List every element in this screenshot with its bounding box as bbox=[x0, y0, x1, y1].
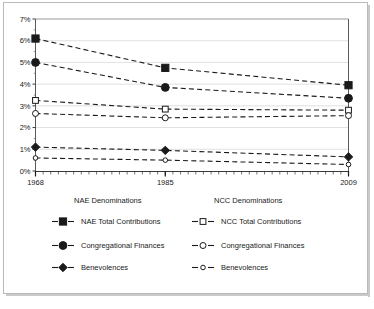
series-line bbox=[36, 39, 349, 86]
legend-entry[interactable]: Congregational Finances bbox=[52, 241, 165, 250]
series-line bbox=[36, 62, 349, 98]
legend-entry[interactable]: NCC Total Contributions bbox=[192, 217, 302, 226]
data-point-marker bbox=[161, 84, 169, 92]
y-tick-label: 3% bbox=[20, 102, 31, 111]
data-point-marker bbox=[200, 219, 206, 225]
data-point-marker bbox=[200, 243, 206, 249]
data-point-marker bbox=[31, 143, 39, 151]
legend-label: Congregational Finances bbox=[221, 241, 305, 250]
chart-page: 0%1%2%3%4%5%6%7% 196819852009 NAE Denomi… bbox=[0, 0, 374, 309]
y-tick-label: 1% bbox=[20, 145, 31, 154]
line-chart: 0%1%2%3%4%5%6%7% 196819852009 NAE Denomi… bbox=[0, 0, 374, 309]
series-5 bbox=[33, 156, 351, 167]
data-point-marker bbox=[32, 59, 40, 67]
data-point-marker bbox=[59, 242, 67, 250]
x-tick-label: 1985 bbox=[157, 178, 174, 187]
data-point-marker bbox=[344, 153, 352, 161]
plot-frame bbox=[36, 19, 349, 172]
legend-label: NCC Total Contributions bbox=[221, 217, 302, 226]
series-0 bbox=[32, 35, 352, 89]
x-tick-label: 2009 bbox=[340, 178, 357, 187]
legend-label: NAE Total Contributions bbox=[81, 217, 161, 226]
legend-entry[interactable]: Benevolences bbox=[192, 263, 268, 272]
series-3 bbox=[33, 98, 352, 114]
legend-column-1: NCC DenominationsNCC Total Contributions… bbox=[192, 196, 305, 272]
series-1 bbox=[32, 59, 353, 103]
data-point-marker bbox=[59, 263, 67, 271]
y-tick-label: 7% bbox=[20, 15, 31, 24]
y-tick-label: 4% bbox=[20, 80, 31, 89]
series-line bbox=[36, 158, 349, 165]
x-axis: 196819852009 bbox=[27, 171, 357, 187]
legend-label: Benevolences bbox=[81, 263, 128, 272]
y-tick-label: 6% bbox=[20, 36, 31, 45]
data-point-marker bbox=[346, 162, 351, 167]
series-line bbox=[36, 100, 349, 110]
data-point-marker bbox=[201, 265, 206, 270]
bottom-caption bbox=[4, 302, 370, 309]
data-point-marker bbox=[162, 106, 168, 112]
legend-heading: NCC Denominations bbox=[214, 196, 283, 205]
y-tick-label: 5% bbox=[20, 58, 31, 67]
legend-label: Congregational Finances bbox=[81, 241, 165, 250]
legend-entry[interactable]: Congregational Finances bbox=[192, 241, 305, 250]
data-point-marker bbox=[33, 98, 39, 104]
legend-heading: NAE Denominations bbox=[74, 196, 142, 205]
legend-column-0: NAE DenominationsNAE Total Contributions… bbox=[52, 196, 165, 272]
series-line bbox=[36, 113, 349, 117]
y-tick-label: 0% bbox=[20, 167, 31, 176]
data-point-marker bbox=[33, 156, 38, 161]
chart-legend: NAE DenominationsNAE Total Contributions… bbox=[52, 196, 305, 272]
data-point-marker bbox=[162, 115, 168, 121]
y-tick-label: 2% bbox=[20, 123, 31, 132]
x-tick-label: 1968 bbox=[27, 178, 44, 187]
series-4 bbox=[33, 110, 352, 120]
data-point-marker bbox=[345, 94, 353, 102]
data-point-marker bbox=[163, 158, 168, 163]
data-point-marker bbox=[32, 35, 39, 42]
legend-entry[interactable]: Benevolences bbox=[52, 263, 128, 272]
legend-label: Benevolences bbox=[221, 263, 268, 272]
data-point-marker bbox=[59, 218, 66, 225]
data-point-marker bbox=[346, 113, 352, 119]
y-gridlines bbox=[36, 41, 349, 150]
data-point-marker bbox=[161, 146, 169, 154]
series-line bbox=[36, 147, 349, 157]
data-point-marker bbox=[162, 64, 169, 71]
data-point-marker bbox=[33, 110, 39, 116]
data-point-marker bbox=[345, 82, 352, 89]
legend-entry[interactable]: NAE Total Contributions bbox=[52, 217, 161, 226]
data-series-layer bbox=[31, 35, 352, 167]
